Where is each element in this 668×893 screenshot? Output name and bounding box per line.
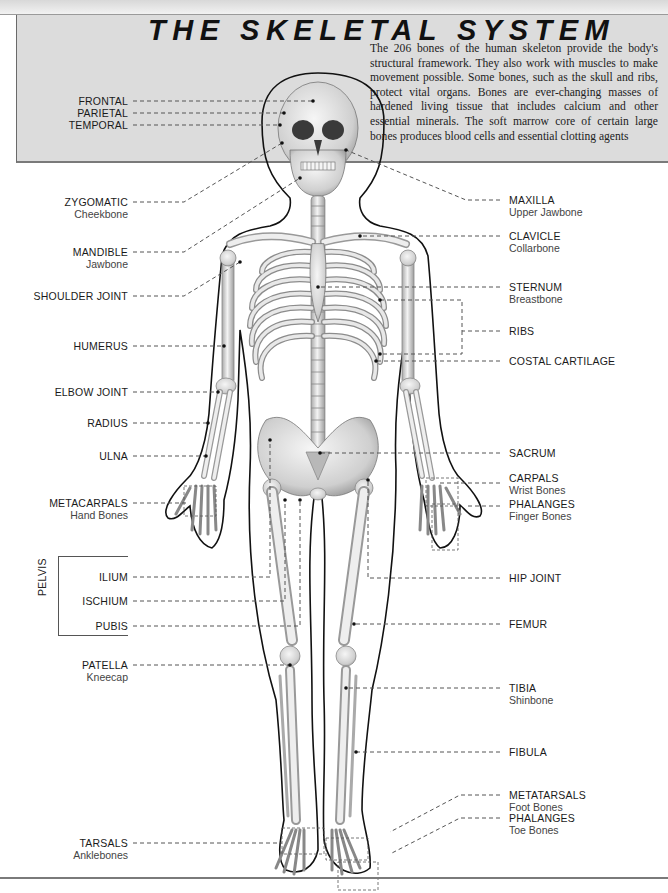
bottom-rule: [0, 877, 668, 879]
label-clavicle: CLAVICLE Collarbone: [509, 230, 561, 254]
label-ribs: RIBS: [509, 325, 534, 337]
label-patella: PATELLA Kneecap: [82, 659, 128, 683]
label-toe-phalanges: PHALANGES Toe Bones: [509, 812, 575, 836]
label-femur: FEMUR: [509, 618, 547, 630]
detail-boxes: [184, 478, 458, 890]
skull: [278, 82, 358, 196]
label-temporal: TEMPORAL: [69, 119, 128, 131]
label-maxilla: MAXILLA Upper Jawbone: [509, 194, 583, 218]
label-humerus: HUMERUS: [74, 340, 129, 352]
label-tarsals: TARSALS Anklebones: [73, 837, 128, 861]
label-zygomatic: ZYGOMATIC Cheekbone: [65, 196, 128, 220]
label-pelvis-group: PELVIS: [36, 558, 48, 596]
label-tibia: TIBIA Shinbone: [509, 682, 553, 706]
label-costal-cartilage: COSTAL CARTILAGE: [509, 355, 615, 367]
label-radius: RADIUS: [87, 417, 128, 429]
label-elbow-joint: ELBOW JOINT: [55, 386, 128, 398]
skeleton-illustration: [0, 0, 668, 893]
label-parietal: PARIETAL: [77, 107, 128, 119]
label-finger-phalanges: PHALANGES Finger Bones: [509, 498, 575, 522]
label-ulna: ULNA: [99, 450, 128, 462]
label-ilium: ILIUM: [99, 571, 128, 583]
label-pubis: PUBIS: [95, 620, 128, 632]
label-frontal: FRONTAL: [78, 95, 128, 107]
label-ischium: ISCHIUM: [82, 595, 128, 607]
label-fibula: FIBULA: [509, 746, 547, 758]
label-sacrum: SACRUM: [509, 447, 556, 459]
label-metacarpals: METACARPALS Hand Bones: [49, 497, 128, 521]
label-sternum: STERNUM Breastbone: [509, 281, 563, 305]
label-hip-joint: HIP JOINT: [509, 572, 561, 584]
label-shoulder-joint: SHOULDER JOINT: [34, 290, 128, 302]
spine: [311, 196, 325, 456]
legs: [263, 479, 373, 820]
label-metatarsals: METATARSALS Foot Bones: [509, 789, 586, 813]
label-carpals: CARPALS Wrist Bones: [509, 472, 565, 496]
label-mandible: MANDIBLE Jawbone: [73, 246, 128, 270]
